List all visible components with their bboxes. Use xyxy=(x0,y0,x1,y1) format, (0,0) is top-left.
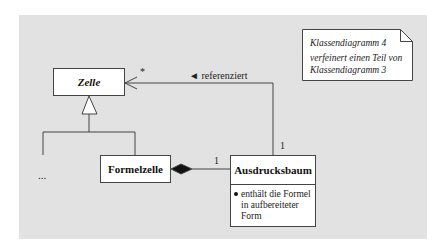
association-label: ◄ referenziert xyxy=(189,70,247,81)
note: Klassendiagramm 4 verfeinert einen Teil … xyxy=(302,29,413,81)
generalization-triangle-icon xyxy=(82,96,97,114)
class-name-zelle: Zelle xyxy=(78,76,101,88)
multiplicity-one-association: 1 xyxy=(280,140,285,151)
class-name-ausdrucksbaum-section: Ausdrucksbaum xyxy=(231,156,315,185)
class-name-formelzelle: Formelzelle xyxy=(108,163,163,175)
class-formelzelle[interactable]: Formelzelle xyxy=(100,155,171,183)
multiplicity-star: * xyxy=(140,66,145,77)
association-connector xyxy=(125,77,273,155)
ellipsis-subclass: ... xyxy=(38,169,46,181)
bullet-icon xyxy=(234,192,238,196)
class-name-ausdrucksbaum: Ausdrucksbaum xyxy=(234,164,312,176)
class-zelle[interactable]: Zelle xyxy=(53,68,125,96)
class-ausdrucksbaum[interactable]: Ausdrucksbaum enthält die Formel in aufb… xyxy=(230,155,316,227)
attribute-text: enthält die Formel in aufbereiteter Form xyxy=(234,189,311,222)
multiplicity-one-composition: 1 xyxy=(214,155,219,166)
filled-diamond-icon xyxy=(171,164,192,174)
generalization-connector xyxy=(43,96,135,155)
composition-connector xyxy=(171,164,230,174)
note-text: Klassendiagramm 4 verfeinert einen Teil … xyxy=(310,37,402,76)
